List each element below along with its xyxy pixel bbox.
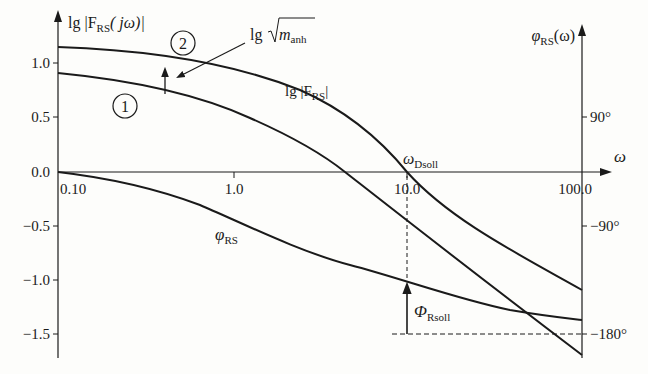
omega-dsoll-label: ωDsoll [403, 150, 438, 170]
marker-2: 2 [171, 31, 195, 55]
x-tick-100.0: 100.0 [558, 181, 592, 197]
y-tick-0.5: 0.5 [31, 109, 50, 125]
shift-label: lg manh [250, 18, 315, 45]
phase-margin-label: ΦRsoll [414, 302, 450, 323]
y-tick-neg0.5: −0.5 [23, 218, 50, 234]
y-tick-0.0: 0.0 [31, 164, 50, 180]
x-axis: 0.10 1.0 10.0 100.0 ω [58, 147, 626, 197]
y-tick-neg1.0: −1.0 [23, 272, 50, 288]
x-tick-0.10: 0.10 [60, 181, 86, 197]
r-tick-neg90: −90° [590, 218, 619, 234]
svg-text:2: 2 [179, 35, 187, 52]
svg-text:lg: lg [250, 26, 262, 44]
y-tick-neg1.5: −1.5 [23, 326, 50, 342]
y-tick-1.0: 1.0 [31, 55, 50, 71]
y-right-axis-label: φRS(ω) [531, 27, 575, 47]
svg-text:1: 1 [121, 98, 129, 115]
r-tick-neg180: −180° [590, 326, 627, 342]
y-left-axis-label: lg |FRS( jω)| [68, 14, 145, 34]
r-tick-90: 90° [590, 109, 611, 125]
bode-diagram: 1.0 0.5 0.0 −0.5 −1.0 −1.5 lg |FRS( jω)|… [0, 0, 648, 374]
phase-curve-label: φRS [215, 225, 238, 246]
curve-label: lg |FRS| [285, 83, 328, 102]
x-axis-label: ω [614, 147, 626, 166]
curve-1 [58, 73, 582, 355]
shift-label-m: manh [279, 26, 307, 45]
x-tick-1.0: 1.0 [225, 181, 244, 197]
marker-1: 1 [113, 94, 137, 118]
